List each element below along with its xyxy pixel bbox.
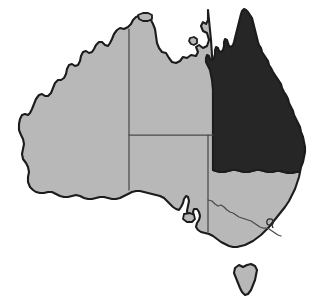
region-queensland[interactable]: [206, 9, 305, 173]
island-melville: [138, 13, 152, 21]
island-kangaroo: [183, 213, 195, 222]
island-groote-eylandt: [189, 37, 197, 45]
act-marker-tail-icon: [272, 225, 273, 228]
australia-map-figure: [0, 0, 322, 308]
australia-map: [0, 0, 322, 308]
region-tasmania: [234, 264, 257, 295]
